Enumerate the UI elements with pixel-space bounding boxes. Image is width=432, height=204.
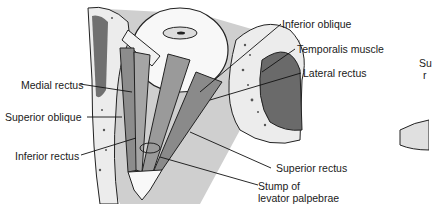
- label-lateral-rectus: Lateral rectus: [303, 67, 367, 79]
- label-stump-line2: levator palpebrae: [258, 192, 339, 204]
- label-inferior-oblique: Inferior oblique: [282, 18, 351, 30]
- partial-secondary-figure: [400, 120, 429, 150]
- label-stump-line1: Stump of: [258, 180, 300, 192]
- pupil: [177, 32, 185, 35]
- label-superior-oblique: Superior oblique: [5, 111, 81, 123]
- label-medial-rectus: Medial rectus: [21, 79, 83, 91]
- label-partial-right-1: Su: [419, 57, 432, 69]
- label-inferior-rectus: Inferior rectus: [15, 150, 79, 162]
- label-superior-rectus: Superior rectus: [276, 162, 347, 174]
- label-temporalis-muscle: Temporalis muscle: [297, 43, 384, 55]
- label-partial-right-2: r: [423, 69, 427, 81]
